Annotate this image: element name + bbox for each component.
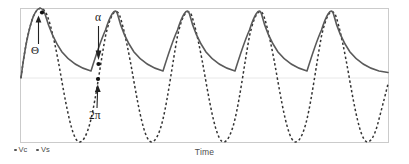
plot-canvas [0, 0, 409, 164]
x-axis-label: Time [0, 147, 409, 157]
annotation-label-twopi: 2π [89, 110, 101, 122]
alpha-point-marker [96, 62, 100, 66]
annotation-label-alpha: α [95, 12, 101, 24]
peak-point-marker [40, 10, 44, 14]
twopi-point-marker [96, 77, 100, 81]
waveform-figure: Θ α 2π Vc Vs Time [0, 0, 409, 164]
annotation-label-theta: Θ [31, 45, 39, 56]
